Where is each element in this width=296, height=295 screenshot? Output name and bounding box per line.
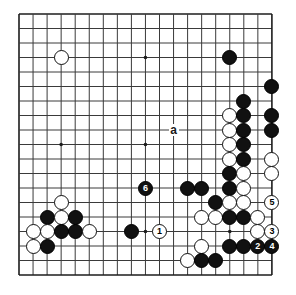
move-marker-4: 4 xyxy=(264,239,279,254)
white-stone xyxy=(180,253,195,268)
white-stone xyxy=(54,50,69,65)
black-stone xyxy=(236,210,251,225)
star-point xyxy=(228,230,232,234)
white-stone xyxy=(82,224,97,239)
move-marker-2: 2 xyxy=(250,239,265,254)
move-marker-6: 6 xyxy=(138,181,153,196)
star-point xyxy=(144,56,148,60)
black-stone xyxy=(222,210,237,225)
white-stone xyxy=(250,210,265,225)
black-stone xyxy=(54,224,69,239)
white-stone xyxy=(194,210,209,225)
black-stone xyxy=(222,181,237,196)
black-stone xyxy=(40,239,55,254)
point-label-a: a xyxy=(169,124,179,136)
black-stone xyxy=(194,181,209,196)
star-point xyxy=(59,143,63,147)
black-stone xyxy=(68,224,83,239)
move-marker-1: 1 xyxy=(152,224,167,239)
star-point xyxy=(144,230,148,234)
black-stone xyxy=(236,239,251,254)
black-stone xyxy=(236,152,251,167)
black-stone xyxy=(68,210,83,225)
white-stone xyxy=(54,195,69,210)
white-stone xyxy=(40,224,55,239)
black-stone xyxy=(40,210,55,225)
white-stone xyxy=(222,123,237,138)
white-stone xyxy=(264,152,279,167)
white-stone xyxy=(236,181,251,196)
white-stone xyxy=(208,210,223,225)
black-stone xyxy=(180,181,195,196)
white-stone xyxy=(26,239,41,254)
white-stone xyxy=(222,152,237,167)
white-stone xyxy=(26,224,41,239)
black-stone xyxy=(236,123,251,138)
black-stone xyxy=(264,123,279,138)
white-stone xyxy=(194,239,209,254)
black-stone xyxy=(236,94,251,109)
go-diagram: 123456a xyxy=(0,0,296,295)
white-stone xyxy=(54,210,69,225)
black-stone xyxy=(222,239,237,254)
star-point xyxy=(144,143,148,147)
black-stone xyxy=(124,224,139,239)
